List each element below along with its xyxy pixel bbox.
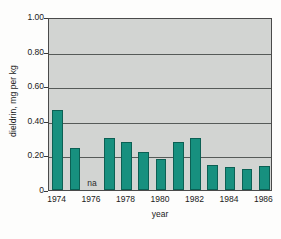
x-axis-tick-labels: 1974197619781980198219841986: [0, 194, 281, 208]
bar: [104, 138, 115, 190]
y-axis-tick-label: 0.20: [14, 151, 44, 160]
y-axis-tick-label: 0.80: [14, 48, 44, 57]
x-axis-tick-label: 1978: [116, 194, 135, 205]
x-axis-tick-label: 1984: [219, 194, 238, 205]
x-axis-tick-label: 1986: [254, 194, 273, 205]
x-axis-title: year: [48, 209, 272, 219]
bar: [70, 148, 81, 190]
bar: [242, 169, 253, 190]
bar: [225, 167, 236, 190]
x-axis-tick-label: 1974: [47, 194, 66, 205]
y-axis-tick-label: 0.60: [14, 82, 44, 91]
bar: [259, 166, 270, 190]
bar: [173, 142, 184, 190]
y-axis-tick-mark: [44, 191, 48, 192]
bar: [52, 110, 63, 190]
bar-missing-label: na: [83, 178, 100, 188]
y-axis-tick-label: 1.00: [14, 13, 44, 22]
bars-layer: na: [49, 19, 271, 190]
plot-area: na: [48, 18, 272, 191]
bar: [121, 142, 132, 190]
bar: [190, 138, 201, 190]
bar: [156, 159, 167, 190]
chart-figure: dieldrin, mg per kg 1.000.800.600.400.20…: [0, 0, 281, 239]
bar: [207, 165, 218, 190]
x-axis-tick-label: 1976: [82, 194, 101, 205]
y-axis-tick-label: 0.40: [14, 117, 44, 126]
x-axis-tick-label: 1980: [151, 194, 170, 205]
bar: [138, 152, 149, 190]
x-axis-tick-label: 1982: [185, 194, 204, 205]
